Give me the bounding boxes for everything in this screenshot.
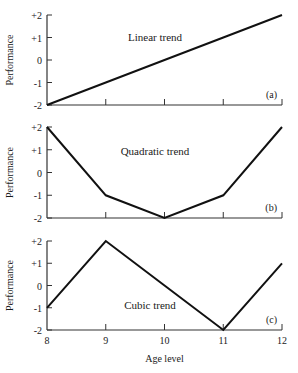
panel-b: +2+10-1-2PerformanceQuadratic trend(b) xyxy=(4,122,282,224)
y-tick-label: +1 xyxy=(31,145,42,156)
trend-figure: +2+10-1-2PerformanceLinear trend(a)+2+10… xyxy=(0,0,298,373)
panel-title: Linear trend xyxy=(128,31,183,43)
x-tick-label: 11 xyxy=(218,335,228,346)
y-tick-label: -2 xyxy=(34,100,42,111)
y-tick-label: +1 xyxy=(31,33,42,44)
x-tick-label: 12 xyxy=(277,335,287,346)
y-tick-label: 0 xyxy=(37,168,42,179)
y-tick-label: 0 xyxy=(37,55,42,66)
y-tick-label: -2 xyxy=(34,213,42,224)
y-tick-label: -1 xyxy=(34,190,42,201)
y-tick-label: +2 xyxy=(31,10,42,21)
x-tick-label: 9 xyxy=(103,335,108,346)
panel-title: Cubic trend xyxy=(124,299,176,311)
y-axis-label: Performance xyxy=(4,146,15,198)
y-tick-label: -1 xyxy=(34,303,42,314)
y-tick-label: +2 xyxy=(31,122,42,133)
y-tick-label: 0 xyxy=(37,281,42,292)
panel-tag: (a) xyxy=(266,89,277,101)
panel-tag: (c) xyxy=(266,314,277,326)
y-tick-label: -1 xyxy=(34,78,42,89)
y-axis-label: Performance xyxy=(4,34,15,86)
x-axis-label: Age level xyxy=(145,353,184,364)
trend-line xyxy=(47,241,282,330)
trend-line xyxy=(47,15,282,105)
panel-title: Quadratic trend xyxy=(121,145,190,157)
panel-c: +2+10-1-2PerformanceCubic trend(c)891011… xyxy=(4,236,287,364)
y-tick-label: +2 xyxy=(31,236,42,247)
trend-line xyxy=(47,127,282,218)
x-tick-label: 10 xyxy=(160,335,170,346)
x-tick-label: 8 xyxy=(45,335,50,346)
y-tick-label: -2 xyxy=(34,325,42,336)
y-axis-label: Performance xyxy=(4,259,15,311)
y-tick-label: +1 xyxy=(31,258,42,269)
panel-tag: (b) xyxy=(265,202,277,214)
panel-a: +2+10-1-2PerformanceLinear trend(a) xyxy=(4,10,282,111)
